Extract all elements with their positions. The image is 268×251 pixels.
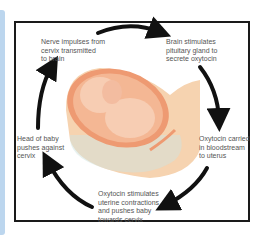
step-oxytocin-bloodstream: Oxytocin carried in bloodstream to uteru… <box>199 135 250 161</box>
step-uterine-contractions: Oxytocin stimulates uterine contractions… <box>98 190 159 224</box>
step-head-pushes-cervix: Head of baby pushes against cervix <box>17 135 64 161</box>
step-nerve-impulses: Nerve impulses from cervix transmitted t… <box>41 38 105 64</box>
arrow-right-top <box>200 67 219 120</box>
arrow-left <box>38 66 52 128</box>
arrow-top <box>98 26 160 33</box>
arrow-bottom-left <box>48 162 92 207</box>
pregnancy-illustration-icon <box>57 56 200 178</box>
step-brain-stimulates: Brain stimulates pituitary gland to secr… <box>166 38 217 64</box>
